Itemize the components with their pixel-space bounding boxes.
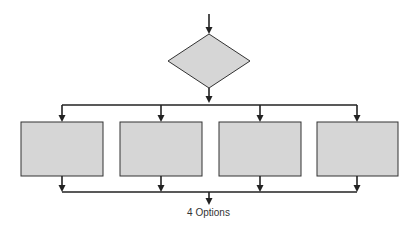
option-box-4 bbox=[317, 122, 398, 176]
option-box-2 bbox=[120, 122, 202, 176]
caption: 4 Options bbox=[0, 207, 417, 218]
option-box-3 bbox=[219, 122, 301, 176]
option-box-1 bbox=[21, 122, 103, 176]
input-arrows bbox=[62, 105, 357, 116]
decision-diamond bbox=[168, 34, 250, 88]
exit-arrow bbox=[206, 198, 213, 205]
flowchart-canvas bbox=[0, 0, 417, 235]
output-arrows bbox=[62, 176, 357, 186]
